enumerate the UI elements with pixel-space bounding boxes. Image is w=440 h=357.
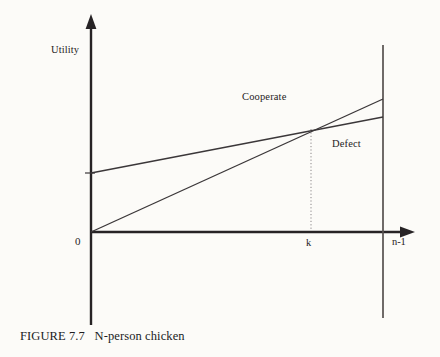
x-tick-label-n-minus-1: n-1 <box>392 237 406 248</box>
figure-container: Utility 0 k n-1 Cooperate Defect FIGURE … <box>0 0 440 357</box>
y-axis <box>86 14 97 325</box>
x-axis <box>91 227 415 238</box>
x-tick-label-k: k <box>306 238 311 249</box>
defect-payoff-line <box>91 99 383 232</box>
figure-caption: FIGURE 7.7 N-person chicken <box>20 329 185 344</box>
y-axis-arrowhead-icon <box>86 14 97 29</box>
y-axis-label: Utility <box>51 45 79 56</box>
series-label-cooperate: Cooperate <box>242 92 287 103</box>
origin-tick-label: 0 <box>75 236 81 247</box>
series-label-defect: Defect <box>332 139 361 150</box>
